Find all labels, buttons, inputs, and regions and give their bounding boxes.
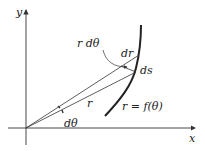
x-axis-label: x xyxy=(189,132,196,145)
ds-label: ds xyxy=(140,64,153,77)
polar-arc-length-diagram: y x r dθ dr ds r dθ r = f(θ) xyxy=(0,0,205,151)
dtheta-tick-lower xyxy=(62,110,63,113)
r-label: r xyxy=(87,97,93,110)
dr-label: dr xyxy=(121,47,134,60)
r-dtheta-label: r dθ xyxy=(77,37,100,50)
dtheta-label: dθ xyxy=(64,117,78,130)
ray-upper xyxy=(26,55,139,128)
curve-equation-label: r = f(θ) xyxy=(122,100,163,113)
y-axis-label: y xyxy=(15,6,23,19)
